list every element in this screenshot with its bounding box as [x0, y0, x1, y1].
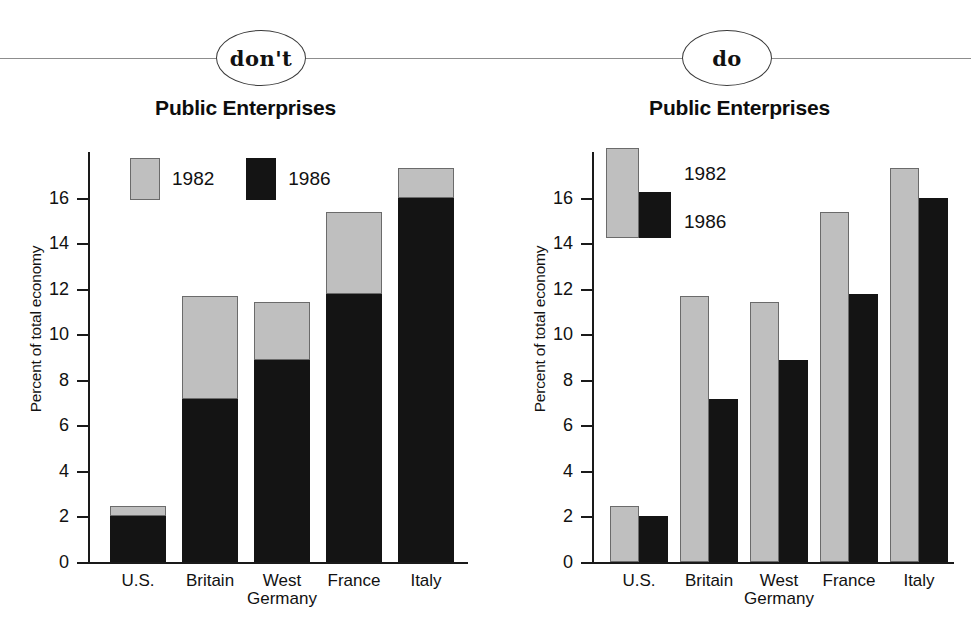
y-tick-label-do-2: 2: [563, 507, 573, 525]
y-tick-label-do-12: 12: [553, 279, 573, 297]
y-tick-label-dont-14: 14: [49, 234, 69, 252]
x-category-label-do-1: Britain: [674, 572, 744, 590]
bar-do-1986-3: [849, 294, 878, 562]
legend-swatch-1986-dont: [246, 158, 276, 200]
bar-dont-1982-0: [110, 506, 166, 516]
bar-do-1982-3: [820, 212, 849, 562]
y-tick-label-do-6: 6: [563, 416, 573, 434]
y-tick-do-12: 12: [581, 289, 594, 291]
dont-badge-label: don't: [230, 48, 293, 69]
x-category-label-dont-0: U.S.: [102, 572, 174, 590]
x-axis-line-dont: [88, 562, 468, 564]
legend-swatch-1982-do: [606, 148, 639, 238]
x-category-label-do-3: France: [814, 572, 884, 590]
bar-do-1982-2: [750, 302, 779, 562]
y-tick-dont-10: 10: [77, 334, 90, 336]
bar-do-1982-4: [890, 168, 919, 562]
dont-badge: don't: [216, 30, 306, 86]
divider-rule-middle: [305, 58, 688, 59]
divider-band: don't do: [0, 30, 971, 88]
bar-dont-1986-3: [326, 294, 382, 562]
bar-dont-1986-4: [398, 198, 454, 562]
divider-rule-right: [771, 58, 971, 59]
y-tick-dont-16: 16: [77, 198, 90, 200]
y-tick-do-0: 0: [581, 562, 594, 564]
y-tick-dont-12: 12: [77, 289, 90, 291]
x-category-label-dont-2: West Germany: [246, 572, 318, 609]
y-tick-label-do-10: 10: [553, 325, 573, 343]
y-tick-do-16: 16: [581, 198, 594, 200]
y-tick-do-8: 8: [581, 380, 594, 382]
bar-dont-1986-0: [110, 516, 166, 562]
y-tick-dont-6: 6: [77, 425, 90, 427]
y-tick-label-do-14: 14: [553, 234, 573, 252]
bar-do-1986-2: [779, 360, 808, 562]
x-axis-line-do: [592, 562, 954, 564]
y-tick-label-dont-16: 16: [49, 188, 69, 206]
bar-dont-1986-1: [182, 399, 238, 562]
y-tick-dont-2: 2: [77, 516, 90, 518]
bar-dont-1982-1: [182, 296, 238, 400]
bar-dont-1986-2: [254, 360, 310, 562]
legend-swatch-1982-dont: [130, 158, 160, 200]
y-tick-dont-14: 14: [77, 243, 90, 245]
y-tick-do-14: 14: [581, 243, 594, 245]
legend-do: 1982 1986: [606, 148, 806, 260]
bar-do-1982-1: [680, 296, 709, 563]
y-tick-label-dont-4: 4: [59, 462, 69, 480]
chart-panel-dont: Public Enterprises Percent of total econ…: [0, 88, 485, 630]
bar-dont-1982-4: [398, 168, 454, 198]
y-tick-label-do-0: 0: [563, 553, 573, 571]
y-tick-label-do-4: 4: [563, 462, 573, 480]
bar-do-1986-0: [639, 516, 668, 562]
y-axis-line-do: [592, 152, 594, 564]
x-category-label-dont-3: France: [318, 572, 390, 590]
legend-swatch-1986-do: [639, 192, 671, 238]
chart-title-dont: Public Enterprises: [0, 96, 485, 120]
y-tick-do-6: 6: [581, 425, 594, 427]
y-tick-dont-0: 0: [77, 562, 90, 564]
y-tick-do-10: 10: [581, 334, 594, 336]
legend-label-1986-dont: 1986: [288, 168, 330, 190]
legend-label-1986-do: 1986: [684, 212, 726, 231]
y-tick-dont-4: 4: [77, 471, 90, 473]
bar-do-1982-0: [610, 506, 639, 562]
y-tick-label-do-8: 8: [563, 370, 573, 388]
y-tick-label-dont-8: 8: [59, 370, 69, 388]
legend-label-1982-dont: 1982: [172, 168, 214, 190]
y-axis-label-dont: Percent of total economy: [27, 209, 45, 449]
y-tick-label-dont-0: 0: [59, 553, 69, 571]
legend-dont: 1982 1986: [130, 158, 363, 200]
y-tick-dont-8: 8: [77, 380, 90, 382]
y-axis-line-dont: [88, 152, 90, 564]
y-tick-label-dont-2: 2: [59, 507, 69, 525]
x-category-label-do-2: West Germany: [744, 572, 814, 609]
x-category-label-dont-1: Britain: [174, 572, 246, 590]
legend-label-1982-do: 1982: [684, 164, 726, 183]
bar-dont-1982-3: [326, 212, 382, 294]
y-tick-label-dont-12: 12: [49, 279, 69, 297]
x-category-label-do-0: U.S.: [604, 572, 674, 590]
bar-dont-1982-2: [254, 302, 310, 360]
y-tick-label-dont-6: 6: [59, 416, 69, 434]
y-axis-label-do: Percent of total economy: [531, 209, 549, 449]
plot-area-dont: 0246810121416U.S.BritainWest GermanyFran…: [88, 152, 468, 564]
bar-do-1986-1: [709, 399, 738, 562]
y-tick-label-do-16: 16: [553, 188, 573, 206]
x-category-label-dont-4: Italy: [390, 572, 462, 590]
chart-panel-do: Public Enterprises Percent of total econ…: [486, 88, 971, 630]
chart-title-do: Public Enterprises: [486, 96, 971, 120]
y-tick-do-4: 4: [581, 471, 594, 473]
do-badge: do: [682, 30, 772, 86]
bar-do-1986-4: [919, 198, 948, 562]
y-tick-label-dont-10: 10: [49, 325, 69, 343]
y-tick-do-2: 2: [581, 516, 594, 518]
divider-rule-left: [0, 58, 218, 59]
do-badge-label: do: [712, 48, 742, 69]
x-category-label-do-4: Italy: [884, 572, 954, 590]
